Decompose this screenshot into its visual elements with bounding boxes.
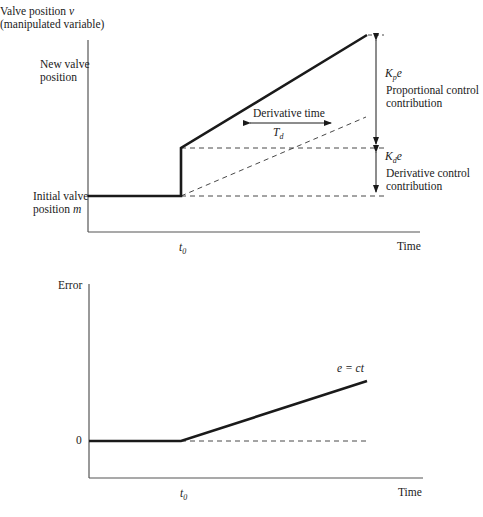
- error-curve: [89, 381, 367, 441]
- t0-sub: 0: [182, 247, 186, 256]
- t0-sub: 0: [183, 493, 187, 502]
- new-valve-line1: New valve: [40, 58, 90, 70]
- top-t0-label: t0: [179, 241, 186, 258]
- new-valve-position-label: New valve position: [40, 58, 90, 84]
- kd-e-label: Kde: [385, 150, 402, 167]
- top-x-axis-label: Time: [397, 240, 421, 253]
- y-label-text: Valve position: [0, 5, 69, 17]
- initial-valve-position-label: Initial valve position m: [33, 190, 88, 216]
- bottom-x-axis-label: Time: [398, 486, 422, 499]
- td-label: Td: [273, 126, 283, 143]
- derivative-time-label: Derivative time: [253, 107, 325, 120]
- prop-line2: contribution: [386, 97, 442, 109]
- kp-e: e: [397, 67, 402, 79]
- top-y-axis-label: Valve position v (manipulated variable): [0, 5, 104, 31]
- top-chart: [88, 35, 420, 232]
- deriv-line2: contribution: [386, 180, 442, 192]
- y-label-var: v: [69, 5, 74, 17]
- kp-e-label: Kpe: [385, 67, 402, 84]
- bottom-y-axis-label: Error: [58, 279, 82, 292]
- deriv-line1: Derivative control: [386, 167, 470, 179]
- kd-K: K: [385, 150, 393, 162]
- new-valve-line2: position: [40, 71, 77, 83]
- y-label-line2: (manipulated variable): [0, 18, 104, 30]
- derivative-contribution-label: Derivative control contribution: [386, 167, 470, 193]
- bottom-t0-label: t0: [180, 487, 187, 504]
- valve-position-curve: [88, 35, 367, 196]
- initial-var: m: [73, 203, 81, 215]
- kd-e: e: [397, 150, 402, 162]
- initial-line1: Initial valve: [33, 190, 88, 202]
- bottom-chart: [89, 284, 423, 478]
- error-equation-label: e = ct: [337, 362, 364, 375]
- kp-K: K: [385, 67, 393, 79]
- initial-line2: position: [33, 203, 73, 215]
- td-sub: d: [279, 132, 283, 141]
- proportional-contribution-label: Proportional control contribution: [386, 84, 479, 110]
- prop-line1: Proportional control: [386, 84, 479, 96]
- zero-tick-label: 0: [76, 434, 82, 447]
